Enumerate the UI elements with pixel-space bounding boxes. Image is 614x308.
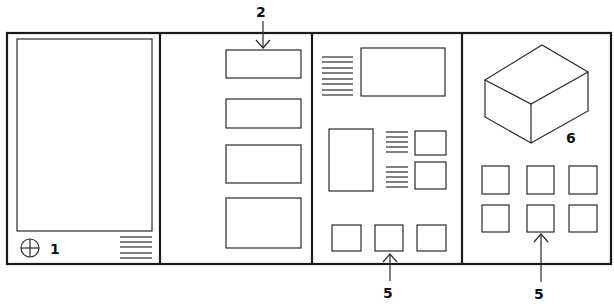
arrow-up-icon <box>534 234 548 282</box>
grid-box-4 <box>482 205 509 232</box>
bottom-box-2 <box>375 225 403 251</box>
cube-number: 6 <box>566 130 576 146</box>
text-lines-lower <box>386 167 408 187</box>
arrow-up-icon <box>383 254 397 281</box>
bottom-box-3 <box>417 225 446 251</box>
text-block <box>322 57 353 95</box>
small-box-2 <box>415 162 446 189</box>
panel-2: 2 <box>226 4 301 248</box>
tall-box <box>329 129 373 191</box>
grid-box-1 <box>482 166 509 194</box>
grid-box-5 <box>527 205 554 232</box>
grid-box-6 <box>569 205 597 232</box>
callout-5-panel-4: 5 <box>534 286 544 302</box>
layout-diagram: 1 2 <box>0 0 614 308</box>
grid-box-3 <box>569 166 597 194</box>
crosshair-icon <box>21 239 39 257</box>
outer-frame <box>7 33 611 264</box>
grid-box-2 <box>527 166 554 194</box>
stacked-box-4 <box>226 198 301 248</box>
image-box <box>361 48 445 96</box>
large-screen <box>17 39 152 231</box>
text-lines <box>120 237 152 258</box>
small-box-1 <box>415 131 446 155</box>
callout-2: 2 <box>256 4 266 20</box>
cube-icon <box>485 45 588 143</box>
panel-1: 1 <box>17 39 152 258</box>
stacked-box-3 <box>226 145 301 183</box>
callout-5-panel-3: 5 <box>383 285 393 301</box>
panel-1-number: 1 <box>50 241 60 257</box>
stacked-box-1 <box>226 50 301 78</box>
arrow-down-icon <box>256 21 270 48</box>
bottom-box-1 <box>332 225 361 251</box>
stacked-box-2 <box>226 99 301 128</box>
text-lines-upper <box>386 132 408 152</box>
